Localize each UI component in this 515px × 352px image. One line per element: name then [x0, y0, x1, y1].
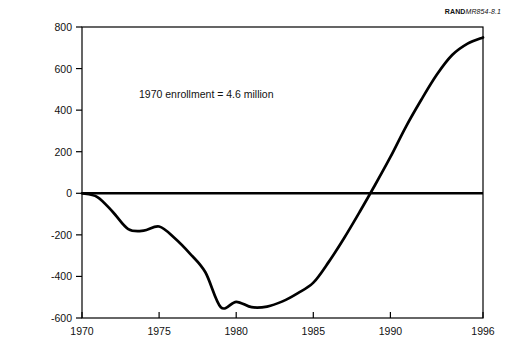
- y-tick-label-minus600: -600: [38, 312, 72, 324]
- x-tick-label-1975: 1975: [137, 325, 181, 337]
- x-tick-label-1980: 1980: [214, 325, 258, 337]
- plot-frame: [82, 27, 483, 318]
- y-tick-label-0: 0: [38, 187, 72, 199]
- y-tick-label-800: 800: [38, 21, 72, 33]
- plot-area: [0, 0, 515, 352]
- y-tick-label-200: 200: [38, 146, 72, 158]
- chart-annotation-note: 1970 enrollment = 4.6 million: [139, 88, 274, 101]
- x-tick-label-1996: 1996: [461, 325, 505, 337]
- y-axis-ticks: [76, 27, 82, 318]
- y-tick-label-400: 400: [38, 104, 72, 116]
- x-tick-label-1990: 1990: [368, 325, 412, 337]
- y-tick-label-minus400: -400: [38, 270, 72, 282]
- figure-k12-enrollment-chart: RANDMR854-8.1 K−12 enrollment relative t…: [0, 0, 515, 352]
- x-tick-label-1970: 1970: [60, 325, 104, 337]
- y-tick-label-minus200: -200: [38, 229, 72, 241]
- x-tick-label-1985: 1985: [291, 325, 335, 337]
- y-tick-label-600: 600: [38, 63, 72, 75]
